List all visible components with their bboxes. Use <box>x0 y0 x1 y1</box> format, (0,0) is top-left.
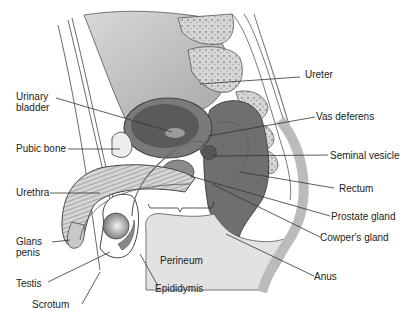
label-prostate-gland: Prostate gland <box>331 211 396 222</box>
label-urinary-bladder-line2: bladder <box>16 102 49 113</box>
label-cowpers-gland: Cowper's gland <box>320 232 389 243</box>
label-epididymis: Epididymis <box>155 283 203 294</box>
label-scrotum: Scrotum <box>32 299 69 310</box>
label-testis: Testis <box>16 278 42 289</box>
label-pubic-bone: Pubic bone <box>16 143 66 154</box>
label-glans-penis-line2: penis <box>16 247 40 258</box>
label-perineum: Perineum <box>160 255 203 266</box>
label-anus: Anus <box>314 271 337 282</box>
label-urinary-bladder-line1: Urinary <box>16 91 48 102</box>
anatomy-diagram: Ureter Urinary bladder Vas deferens Pubi… <box>0 0 408 321</box>
label-glans-penis-line1: Glans <box>16 236 42 247</box>
label-vas-deferens: Vas deferens <box>316 111 374 122</box>
label-ureter: Ureter <box>305 69 333 80</box>
label-rectum: Rectum <box>339 183 373 194</box>
label-urethra: Urethra <box>16 187 49 198</box>
testis-shape <box>103 213 129 239</box>
label-seminal-vesicle: Seminal vesicle <box>330 150 399 161</box>
seminal-vesicle-shape <box>200 146 216 160</box>
